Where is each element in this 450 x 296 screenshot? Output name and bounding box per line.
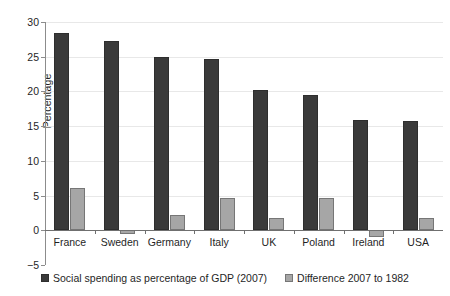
bar <box>419 218 434 230</box>
y-tick-mark <box>41 161 45 162</box>
x-tick-mark <box>294 230 295 234</box>
x-axis-label: Poland <box>294 236 344 248</box>
y-tick-mark <box>41 91 45 92</box>
x-tick-mark <box>344 230 345 234</box>
chart-legend: Social spending as percentage of GDP (20… <box>0 272 450 284</box>
y-tick-mark <box>41 22 45 23</box>
y-tick-label: 5 <box>33 190 39 202</box>
legend-swatch-icon <box>41 274 49 282</box>
y-tick-label: 20 <box>27 85 39 97</box>
y-tick-label: 0 <box>33 224 39 236</box>
bar <box>269 218 284 230</box>
legend-swatch-icon <box>285 274 293 282</box>
bar <box>353 120 368 230</box>
bar <box>303 95 318 230</box>
x-axis-label: France <box>45 236 95 248</box>
bar <box>253 90 268 230</box>
y-tick-label: −5 <box>27 259 39 271</box>
y-axis-line <box>45 22 46 265</box>
y-tick-mark <box>41 230 45 231</box>
bar-chart-figure: Percentage 302520151050−5 FranceSwedenGe… <box>0 0 450 296</box>
legend-item: Difference 2007 to 1982 <box>285 272 409 284</box>
y-tick-mark <box>41 265 45 266</box>
bar <box>204 59 219 230</box>
x-axis-label: Sweden <box>95 236 145 248</box>
x-tick-mark <box>194 230 195 234</box>
y-tick-label: 25 <box>27 51 39 63</box>
bar <box>154 57 169 231</box>
x-tick-mark <box>393 230 394 234</box>
y-tick-label: 30 <box>27 16 39 28</box>
bar <box>104 41 119 231</box>
x-tick-mark <box>95 230 96 234</box>
y-tick-mark <box>41 57 45 58</box>
x-axis-label: Italy <box>194 236 244 248</box>
gridline <box>45 22 443 23</box>
bar <box>54 33 69 230</box>
y-tick-mark <box>41 126 45 127</box>
legend-label: Social spending as percentage of GDP (20… <box>53 272 267 284</box>
bar <box>70 188 85 230</box>
bar <box>403 121 418 230</box>
x-axis-label: UK <box>244 236 294 248</box>
x-axis-label: Ireland <box>344 236 394 248</box>
y-tick-label: 15 <box>27 120 39 132</box>
x-axis-label: Germany <box>145 236 195 248</box>
legend-label: Difference 2007 to 1982 <box>297 272 409 284</box>
plot-area: 302520151050−5 FranceSwedenGermanyItalyU… <box>45 22 443 265</box>
bar <box>319 198 334 230</box>
x-tick-mark <box>244 230 245 234</box>
bar <box>170 215 185 230</box>
legend-item: Social spending as percentage of GDP (20… <box>41 272 267 284</box>
x-tick-mark <box>145 230 146 234</box>
x-axis-label: USA <box>393 236 443 248</box>
bar <box>220 198 235 231</box>
y-tick-label: 10 <box>27 155 39 167</box>
y-tick-mark <box>41 196 45 197</box>
